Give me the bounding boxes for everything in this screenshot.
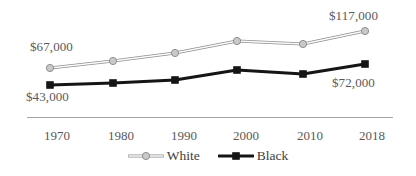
legend-item-white[interactable]: White [128,148,200,164]
data-point-white-1970 [46,64,53,71]
data-point-black-2018 [361,60,369,68]
legend-label-white: White [167,148,200,164]
legend-swatch-white-icon [128,150,164,162]
line-chart: $67,000 $117,000 $43,000 $72,000 1970 19… [0,0,416,176]
x-tick-1970: 1970 [44,128,70,144]
x-tick-2018: 2018 [359,128,385,144]
data-point-white-2018 [361,27,368,34]
x-tick-2010: 2010 [297,128,323,144]
annotation-white-start: $67,000 [30,39,73,55]
data-point-black-2010 [299,70,307,78]
data-point-white-2010 [299,40,306,47]
data-point-black-2000 [233,66,241,74]
chart-legend: White Black [0,148,416,164]
legend-swatch-black-icon [218,150,254,162]
data-point-black-1980 [109,79,117,87]
data-point-white-2000 [233,37,240,44]
legend-item-black[interactable]: Black [218,148,289,164]
data-point-white-1990 [171,49,178,56]
annotation-black-end: $72,000 [332,75,375,91]
data-point-black-1970 [46,81,54,89]
annotation-white-end: $117,000 [329,8,378,24]
x-tick-1990: 1990 [171,128,197,144]
series-line-white [50,31,365,68]
legend-label-black: Black [257,148,289,164]
annotation-black-start: $43,000 [26,89,69,105]
x-tick-1980: 1980 [108,128,134,144]
data-point-black-1990 [171,76,179,84]
x-tick-2000: 2000 [233,128,259,144]
series-line-black [50,64,365,85]
data-point-white-1980 [109,57,116,64]
